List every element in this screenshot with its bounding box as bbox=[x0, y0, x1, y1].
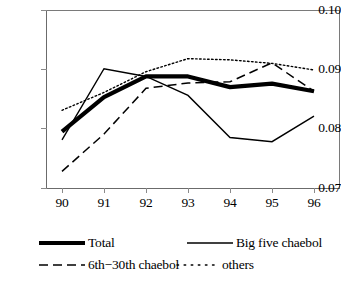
legend-label-others: others bbox=[222, 257, 254, 272]
legend-swatch-others bbox=[176, 260, 220, 270]
series-line-big-five-chaebol bbox=[62, 69, 314, 142]
legend-item-6th-30th-chaebol: 6th−30th chaebol bbox=[38, 256, 179, 272]
legend-swatch-big-five-chaebol bbox=[186, 238, 234, 248]
legend-swatch-6th-30th-chaebol bbox=[38, 260, 86, 270]
legend-item-total: Total bbox=[38, 234, 115, 250]
legend-label-6th-30th-chaebol: 6th−30th chaebol bbox=[88, 257, 179, 272]
chart-figure: 0.10 0.09 0.08 0.07 90 91 92 93 94 95 96… bbox=[0, 0, 341, 287]
legend-label-big-five-chaebol: Big five chaebol bbox=[236, 235, 322, 250]
series-line-6th-30th-chaebol bbox=[62, 63, 314, 172]
legend-item-big-five-chaebol: Big five chaebol bbox=[186, 234, 322, 250]
legend-label-total: Total bbox=[88, 235, 115, 250]
legend-swatch-total bbox=[38, 238, 86, 248]
series-line-total bbox=[62, 76, 314, 131]
legend-item-others: others bbox=[176, 256, 254, 272]
chart-legend: Total Big five chaebol 6th−30th chaebol … bbox=[0, 232, 341, 287]
